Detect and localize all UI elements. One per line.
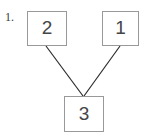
node-box-1[interactable]: 1 xyxy=(102,11,139,46)
node-label-2: 2 xyxy=(42,18,53,37)
node-label-1: 1 xyxy=(115,18,126,37)
node-box-3[interactable]: 3 xyxy=(64,96,104,132)
edge-node1-to-node3 xyxy=(84,46,120,96)
diagram-figure: 1. 2 1 3 xyxy=(0,0,150,139)
edge-node2-to-node3 xyxy=(46,46,83,96)
node-box-2[interactable]: 2 xyxy=(27,11,67,46)
node-label-3: 3 xyxy=(79,104,90,123)
